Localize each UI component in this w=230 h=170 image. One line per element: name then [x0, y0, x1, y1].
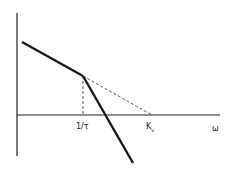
- bode-diagram: [0, 0, 230, 170]
- omega-label: ω: [212, 124, 219, 133]
- crossover-label: Kv: [146, 122, 154, 133]
- crossover-sub: v: [151, 127, 154, 133]
- break-frequency-label: 1/τ: [76, 122, 89, 131]
- asymptote-low: [22, 42, 83, 76]
- asymptote-high: [83, 76, 133, 163]
